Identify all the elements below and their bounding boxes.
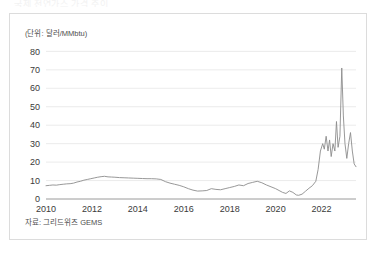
gridlines-group	[46, 51, 356, 180]
svg-text:30: 30	[30, 139, 40, 149]
price-series-line	[46, 68, 356, 195]
y-axis-tick-labels: 01020304050607080	[30, 47, 40, 205]
svg-text:60: 60	[30, 83, 40, 93]
source-note: 자료: 그리드위즈 GEMS	[25, 216, 102, 227]
svg-text:80: 80	[30, 47, 40, 57]
chart-figure-frame: (단위: 달러/MMbtu) 01020304050607080 2010201…	[9, 13, 367, 240]
svg-text:2014: 2014	[128, 204, 148, 214]
svg-text:2010: 2010	[36, 204, 56, 214]
svg-text:2012: 2012	[82, 204, 102, 214]
svg-text:20: 20	[30, 157, 40, 167]
svg-text:50: 50	[30, 102, 40, 112]
svg-text:10: 10	[30, 176, 40, 186]
svg-text:70: 70	[30, 65, 40, 75]
svg-text:2022: 2022	[312, 204, 332, 214]
svg-text:2018: 2018	[220, 204, 240, 214]
svg-text:2020: 2020	[266, 204, 286, 214]
cut-off-page-title: 국제 천연가스 가격 추이	[14, 0, 108, 7]
plot-area: 01020304050607080 2010201220142016201820…	[10, 14, 366, 239]
svg-text:40: 40	[30, 120, 40, 130]
svg-text:0: 0	[35, 194, 40, 204]
x-axis-tick-labels: 2010201220142016201820202022	[36, 204, 332, 214]
svg-text:2016: 2016	[174, 204, 194, 214]
line-chart-svg: 01020304050607080 2010201220142016201820…	[10, 14, 366, 239]
